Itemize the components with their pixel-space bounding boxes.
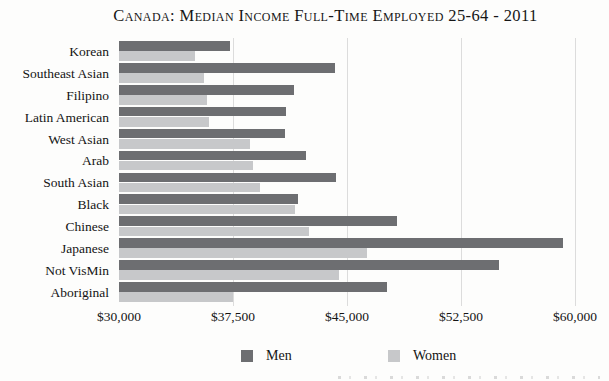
y-axis-category-labels: KoreanSoutheast AsianFilipinoLatin Ameri… [0, 41, 109, 304]
women-bar-southeast-asian [119, 73, 204, 83]
category-label: Korean [0, 41, 109, 63]
men-bar-not-vismin [119, 260, 499, 270]
category-label: Chinese [0, 216, 109, 238]
bar-row [119, 41, 575, 63]
legend-label-women: Women [413, 348, 456, 364]
bar-row [119, 282, 575, 304]
legend-label-men: Men [266, 348, 292, 364]
women-bar-west-asian [119, 139, 250, 149]
bar-row [119, 85, 575, 107]
bar-row [119, 216, 575, 238]
women-bar-not-vismin [119, 270, 339, 280]
men-bar-west-asian [119, 129, 285, 139]
x-tick-label: $30,000 [97, 309, 141, 325]
men-bar-south-asian [119, 173, 336, 183]
women-bar-black [119, 205, 295, 215]
men-bar-latin-american [119, 107, 286, 117]
x-tick-label: $45,000 [325, 309, 369, 325]
bar-row [119, 172, 575, 194]
gridline [575, 38, 576, 306]
category-label: Black [0, 194, 109, 216]
category-label: West Asian [0, 129, 109, 151]
bar-row [119, 151, 575, 173]
women-bar-chinese [119, 227, 309, 237]
x-tick-label: $60,000 [553, 309, 597, 325]
men-bar-black [119, 194, 298, 204]
men-bar-chinese [119, 216, 397, 226]
x-tick-label: $52,500 [439, 309, 483, 325]
category-label: South Asian [0, 172, 109, 194]
category-label: Latin American [0, 107, 109, 129]
bar-row [119, 194, 575, 216]
category-label: Southeast Asian [0, 63, 109, 85]
men-bar-arab [119, 151, 306, 161]
women-bar-arab [119, 161, 253, 171]
x-axis-tick-labels: $30,000$37,500$45,000$52,500$60,000 [0, 309, 609, 327]
men-bar-aboriginal [119, 282, 387, 292]
chart-page: Canada: Median Income Full-Time Employed… [0, 0, 609, 381]
x-tick-label: $37,500 [211, 309, 255, 325]
bar-row [119, 260, 575, 282]
plot-area [119, 38, 575, 306]
category-label: Aboriginal [0, 282, 109, 304]
men-bar-filipino [119, 85, 294, 95]
men-series-swatch [241, 350, 253, 362]
women-series-swatch [388, 350, 400, 362]
bar-row [119, 238, 575, 260]
women-bar-latin-american [119, 117, 209, 127]
men-bar-southeast-asian [119, 63, 335, 73]
bar-row [119, 63, 575, 85]
women-bar-south-asian [119, 183, 260, 193]
women-bar-aboriginal [119, 292, 233, 302]
legend-item-men: Men [241, 348, 292, 364]
men-bar-korean [119, 41, 230, 51]
bar-row [119, 107, 575, 129]
men-bar-japanese [119, 238, 563, 248]
category-label: Japanese [0, 238, 109, 260]
legend-item-women: Women [388, 348, 456, 364]
women-bar-japanese [119, 248, 367, 258]
chart-title: Canada: Median Income Full-Time Employed… [0, 6, 609, 26]
cropped-text-fragment [338, 376, 600, 379]
bar-row [119, 129, 575, 151]
women-bar-korean [119, 51, 195, 61]
chart-legend: Men Women [0, 348, 609, 366]
category-label: Not VisMin [0, 260, 109, 282]
category-label: Filipino [0, 85, 109, 107]
category-label: Arab [0, 150, 109, 172]
women-bar-filipino [119, 95, 207, 105]
